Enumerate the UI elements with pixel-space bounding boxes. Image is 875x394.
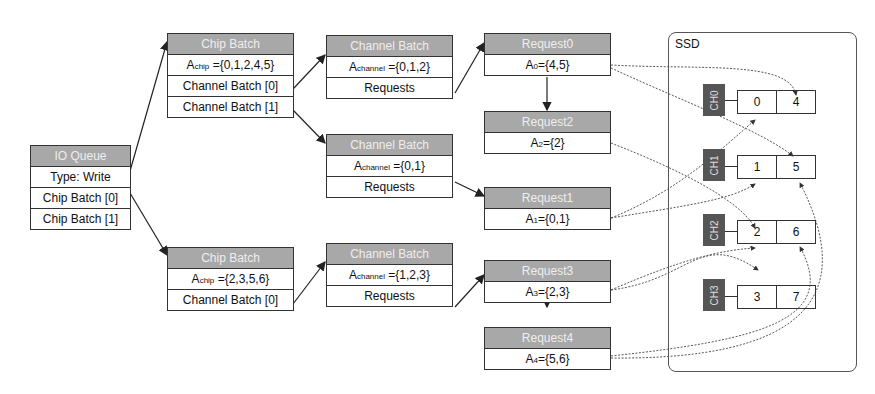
channel-batch-2-box: Channel Batch Achannel ={1,2,3} Requests	[326, 243, 453, 307]
channel-2-tag: CH2	[703, 214, 725, 246]
io-queue-type: Type: Write	[31, 167, 130, 188]
chip-7: 7	[777, 286, 815, 308]
io-queue-box: IO Queue Type: Write Chip Batch [0] Chip…	[30, 145, 131, 230]
request-set: A4={5,6}	[485, 349, 610, 369]
channel-3-chips: 37	[737, 285, 816, 309]
request2-box: Request2 A2={2}	[484, 111, 611, 154]
channel-batch-1-box: Channel Batch Achannel ={0,1} Requests	[326, 134, 453, 198]
request1-box: Request1 A1={0,1}	[484, 187, 611, 230]
ssd-container: SSD	[668, 32, 857, 372]
chip-batch-title: Chip Batch	[168, 248, 293, 269]
chip-batch-channel-0: Channel Batch [0]	[168, 76, 293, 97]
request-set: A3={2,3}	[485, 282, 610, 302]
request4-box: Request4 A4={5,6}	[484, 327, 611, 370]
ssd-label: SSD	[675, 37, 700, 51]
channel-batch-set: Achannel ={0,1,2}	[327, 57, 452, 78]
request-title: Request2	[485, 112, 610, 133]
chip-batch-set: Achip ={2,3,5,6}	[168, 269, 293, 290]
request0-box: Request0 A0={4,5}	[484, 33, 611, 76]
request-title: Request1	[485, 188, 610, 209]
chip-batch-channel-1: Channel Batch [1]	[168, 97, 293, 117]
request3-box: Request3 A3={2,3}	[484, 260, 611, 303]
channel-batch-requests: Requests	[327, 286, 452, 306]
channel-batch-title: Channel Batch	[327, 36, 452, 57]
channel-batch-requests: Requests	[327, 78, 452, 98]
channel-batch-title: Channel Batch	[327, 244, 452, 265]
channel-0-tag: CH0	[703, 84, 725, 116]
chip-batch-1-box: Chip Batch Achip ={2,3,5,6} Channel Batc…	[167, 247, 294, 311]
channel-batch-requests: Requests	[327, 177, 452, 197]
channel-0-chips: 04	[737, 90, 816, 114]
request-set: A2={2}	[485, 133, 610, 153]
chip-1: 1	[738, 156, 777, 178]
chip-4: 4	[777, 91, 815, 113]
channel-batch-0-box: Channel Batch Achannel ={0,1,2} Requests	[326, 35, 453, 99]
chip-6: 6	[777, 221, 815, 243]
channel-3-tag: CH3	[703, 279, 725, 311]
channel-2-chips: 26	[737, 220, 816, 244]
request-title: Request0	[485, 34, 610, 55]
io-queue-title: IO Queue	[31, 146, 130, 167]
io-queue-chip-batch-1: Chip Batch [1]	[31, 209, 130, 229]
channel-1-chips: 15	[737, 155, 816, 179]
request-title: Request4	[485, 328, 610, 349]
io-queue-chip-batch-0: Chip Batch [0]	[31, 188, 130, 209]
request-title: Request3	[485, 261, 610, 282]
request-set: A1={0,1}	[485, 209, 610, 229]
chip-5: 5	[777, 156, 815, 178]
chip-batch-channel-0: Channel Batch [0]	[168, 290, 293, 310]
channel-batch-set: Achannel ={0,1}	[327, 156, 452, 177]
chip-3: 3	[738, 286, 777, 308]
chip-0: 0	[738, 91, 777, 113]
channel-batch-title: Channel Batch	[327, 135, 452, 156]
channel-1-tag: CH1	[703, 149, 725, 181]
channel-batch-set: Achannel ={1,2,3}	[327, 265, 452, 286]
chip-2: 2	[738, 221, 777, 243]
chip-batch-title: Chip Batch	[168, 34, 293, 55]
chip-batch-0-box: Chip Batch Achip ={0,1,2,4,5} Channel Ba…	[167, 33, 294, 118]
chip-batch-set: Achip ={0,1,2,4,5}	[168, 55, 293, 76]
request-set: A0={4,5}	[485, 55, 610, 75]
